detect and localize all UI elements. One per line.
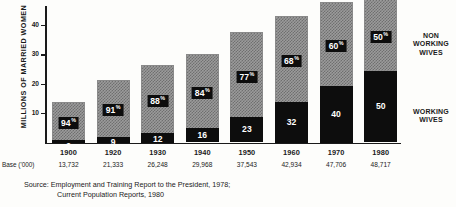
y-tick-20 — [41, 84, 46, 85]
bar-1900: 94%6 — [52, 102, 85, 142]
bar-1960: 68%32 — [275, 16, 308, 142]
x-label-1960: 1960 — [269, 148, 315, 157]
bar-segment-nonworking-1980: 50% — [364, 0, 397, 71]
base-value-1960: 42,934 — [269, 161, 315, 168]
bar-segment-nonworking-1920: 91% — [97, 80, 130, 137]
pct-value-1940: 84 — [195, 88, 205, 98]
bar-1980: 50%50 — [364, 0, 397, 143]
bar-1950: 77%23 — [230, 32, 263, 143]
legend-working-wives: WORKING WIVES — [406, 108, 456, 125]
bar-value-1960: 32 — [287, 118, 297, 127]
bar-value-1940: 16 — [198, 131, 208, 140]
base-value-1900: 13,732 — [46, 161, 92, 168]
pct-badge-1920: 91% — [103, 104, 124, 116]
pct-value-1930: 88 — [150, 96, 160, 106]
pct-value-1920: 91 — [106, 105, 116, 115]
percent-sign-1930: % — [160, 95, 165, 101]
x-label-1900: 1900 — [46, 148, 92, 157]
pct-badge-1970: 60% — [326, 40, 347, 52]
percent-sign-1920: % — [116, 104, 121, 110]
x-label-1970: 1970 — [313, 148, 359, 157]
bar-value-1970: 40 — [331, 110, 341, 119]
pct-badge-1980: 50% — [370, 31, 391, 43]
y-tick-30 — [41, 54, 46, 55]
pct-badge-1950: 77% — [236, 71, 257, 83]
legend-nonworking-wives: NON WORKING WIVES — [406, 32, 456, 57]
bar-segment-nonworking-1950: 77% — [230, 32, 263, 117]
bar-segment-working-1970: 40 — [320, 86, 353, 142]
base-value-1940: 29,968 — [179, 161, 225, 168]
x-label-1930: 1930 — [135, 148, 181, 157]
percent-sign-1980: % — [383, 31, 388, 37]
base-value-1970: 47,706 — [313, 161, 359, 168]
base-value-1950: 37,543 — [224, 161, 270, 168]
base-value-1980: 48,717 — [358, 161, 404, 168]
bar-segment-working-1960: 32 — [275, 102, 308, 143]
bar-segment-working-1980: 50 — [364, 71, 397, 143]
bar-1930: 88%12 — [141, 65, 174, 142]
legend-working-line2: WIVES — [406, 116, 456, 124]
bar-segment-working-1920: 9 — [97, 137, 130, 143]
pct-value-1900: 94 — [61, 118, 71, 128]
bar-value-1920: 9 — [111, 138, 116, 147]
x-axis-line — [45, 143, 401, 145]
x-label-1980: 1980 — [358, 148, 404, 157]
bar-value-1950: 23 — [242, 125, 252, 134]
pct-badge-1960: 68% — [281, 55, 302, 67]
base-row-title: Base ('000) — [2, 161, 34, 168]
y-tick-label-10: 10 — [24, 110, 39, 117]
bar-segment-nonworking-1960: 68% — [275, 16, 308, 102]
bar-1920: 91%9 — [97, 80, 130, 143]
base-value-1920: 21,333 — [90, 161, 136, 168]
bar-segment-working-1940: 16 — [186, 128, 219, 142]
percent-sign-1960: % — [294, 55, 299, 61]
y-tick-label-40: 40 — [24, 22, 39, 29]
stacked-bar-chart: MILLIONS OF MARRIED WOMEN 1020304050 94%… — [0, 0, 456, 207]
y-tick-10 — [41, 113, 46, 114]
bar-1970: 60%40 — [320, 2, 353, 143]
bar-segment-working-1900: 6 — [52, 140, 85, 142]
bar-value-1930: 12 — [153, 135, 163, 144]
legend-nonworking-line1: NON — [406, 32, 456, 40]
percent-sign-1940: % — [205, 87, 210, 93]
bar-segment-working-1930: 12 — [141, 133, 174, 142]
pct-value-1960: 68 — [284, 56, 294, 66]
pct-value-1950: 77 — [239, 71, 249, 81]
bar-segment-nonworking-1900: 94% — [52, 102, 85, 140]
y-axis-line — [45, 6, 47, 144]
source-line-2: Current Population Reports, 1980 — [57, 190, 164, 199]
pct-badge-1940: 84% — [192, 87, 213, 99]
percent-sign-1950: % — [250, 71, 255, 77]
y-tick-40 — [41, 25, 46, 26]
pct-badge-1930: 88% — [147, 95, 168, 107]
bar-segment-nonworking-1930: 88% — [141, 65, 174, 133]
base-value-1930: 26,248 — [135, 161, 181, 168]
legend-nonworking-line3: WIVES — [406, 49, 456, 57]
percent-sign-1900: % — [71, 117, 76, 123]
percent-sign-1970: % — [339, 40, 344, 46]
pct-value-1970: 60 — [329, 41, 339, 51]
source-line-1: Source: Employment and Training Report t… — [24, 180, 230, 189]
y-tick-label-20: 20 — [24, 81, 39, 88]
bar-1940: 84%16 — [186, 54, 219, 142]
x-label-1940: 1940 — [179, 148, 225, 157]
bar-segment-nonworking-1970: 60% — [320, 2, 353, 86]
bar-value-1980: 50 — [376, 102, 386, 111]
legend-nonworking-line2: WORKING — [406, 40, 456, 48]
y-tick-label-30: 30 — [24, 51, 39, 58]
pct-badge-1900: 94% — [58, 117, 79, 129]
x-label-1950: 1950 — [224, 148, 270, 157]
bar-segment-working-1950: 23 — [230, 117, 263, 142]
pct-value-1980: 50 — [373, 32, 383, 42]
bar-segment-nonworking-1940: 84% — [186, 54, 219, 128]
x-label-1920: 1920 — [90, 148, 136, 157]
legend-working-line1: WORKING — [406, 108, 456, 116]
